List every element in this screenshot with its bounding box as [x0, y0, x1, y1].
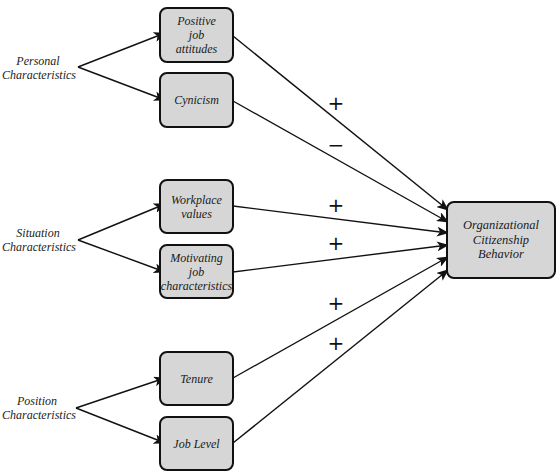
node-workplace-values: Workplace values [159, 179, 234, 234]
sign-tenure: + [326, 293, 346, 313]
group-label-personal: Personal Characteristics [2, 54, 74, 82]
sign-cynicism: − [326, 135, 346, 155]
sign-motivating-job-characteristics: + [326, 233, 346, 253]
group-label-position: Position Characteristics [2, 394, 72, 422]
sign-workplace-values: + [326, 195, 346, 215]
sign-positive-job-attitudes: + [326, 93, 346, 113]
node-motivating-job-characteristics: Motivating job characteristics [159, 244, 234, 299]
node-job-level: Job Level [159, 416, 234, 471]
node-positive-job-attitudes: Positive job attitudes [159, 7, 234, 63]
node-tenure: Tenure [159, 351, 234, 406]
node-cynicism: Cynicism [159, 72, 234, 128]
node-organizational-citizenship-behavior: Organizational Citizenship Behavior [446, 201, 556, 279]
sign-job-level: + [326, 333, 346, 353]
diagram-canvas: Personal Characteristics Situation Chara… [0, 0, 560, 475]
group-label-situation: Situation Characteristics [2, 226, 74, 254]
